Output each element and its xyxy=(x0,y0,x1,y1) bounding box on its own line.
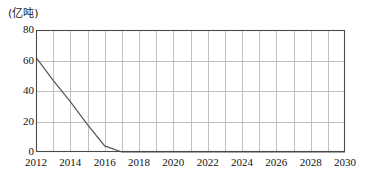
x-axis-tick-label: 2030 xyxy=(334,156,356,169)
x-axis-tick-label: 2016 xyxy=(94,156,116,169)
y-axis-tick-label: 60 xyxy=(2,55,34,66)
x-axis-tick-label: 2014 xyxy=(59,156,81,169)
x-axis-tick-label: 2018 xyxy=(128,156,150,169)
x-axis-tick-label: 2012 xyxy=(25,156,47,169)
plot-frame xyxy=(37,31,345,152)
plot-svg xyxy=(36,30,345,152)
y-axis-tick-label: 80 xyxy=(2,24,34,35)
x-axis-tick-label: 2020 xyxy=(162,156,184,169)
x-axis-tick-label: 2028 xyxy=(300,156,322,169)
data-series-line xyxy=(36,57,345,152)
line-chart: (亿吨) 806040200 2012201420162018202020222… xyxy=(0,0,375,186)
y-axis-tick-label: 40 xyxy=(2,85,34,96)
x-axis-tick-label: 2022 xyxy=(197,156,219,169)
x-axis-tick-label: 2026 xyxy=(265,156,287,169)
gridlines-horizontal xyxy=(36,62,345,123)
x-axis-tick-label: 2024 xyxy=(231,156,253,169)
y-axis-tick-label: 20 xyxy=(2,116,34,127)
plot-area xyxy=(36,30,345,152)
x-axis-tick-labels: 2012201420162018202020222024202620282030 xyxy=(36,156,356,176)
